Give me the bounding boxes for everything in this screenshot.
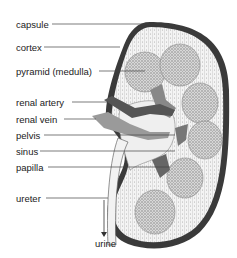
label-cortex: cortex bbox=[16, 42, 42, 53]
urine-arrowhead bbox=[101, 232, 107, 237]
label-ureter: ureter bbox=[16, 193, 41, 204]
label-urine: urine bbox=[95, 238, 116, 249]
pyramid-6 bbox=[135, 190, 175, 234]
kidney-illustration bbox=[0, 0, 237, 258]
label-capsule: capsule bbox=[16, 19, 49, 30]
label-sinus: sinus bbox=[16, 146, 38, 157]
pyramid-2 bbox=[160, 44, 200, 86]
label-pyramid: pyramid (medulla) bbox=[16, 66, 92, 77]
label-papilla: papilla bbox=[16, 162, 43, 173]
label-renal-artery: renal artery bbox=[16, 97, 64, 108]
pyramid-5 bbox=[167, 158, 203, 198]
pyramid-3 bbox=[182, 83, 218, 123]
label-renal-vein: renal vein bbox=[16, 114, 57, 125]
label-pelvis: pelvis bbox=[16, 130, 40, 141]
kidney-diagram: capsule cortex pyramid (medulla) renal a… bbox=[0, 0, 237, 258]
pyramid-4 bbox=[188, 121, 222, 159]
